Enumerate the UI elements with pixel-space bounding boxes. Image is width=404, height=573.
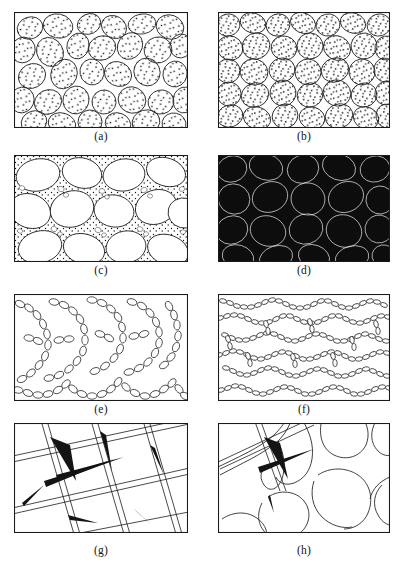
panel-b	[218, 12, 390, 128]
panel-e	[14, 294, 188, 401]
caption-e: (e)	[71, 403, 131, 415]
panel-g-graphic	[14, 423, 188, 533]
caption-f: (f)	[274, 403, 334, 415]
panel-f	[218, 294, 390, 401]
caption-h: (h)	[274, 544, 334, 556]
figure-sheet: (a)	[0, 0, 404, 573]
panel-f-graphic	[218, 294, 390, 401]
caption-d: (d)	[274, 264, 334, 276]
panel-h	[218, 423, 390, 533]
panel-c	[14, 155, 188, 262]
panel-g	[14, 423, 188, 533]
panel-c-graphic	[14, 155, 188, 262]
panel-d-graphic	[218, 155, 390, 262]
caption-a: (a)	[71, 130, 131, 142]
panel-a	[14, 12, 188, 128]
caption-b: (b)	[274, 130, 334, 142]
panel-d	[218, 155, 390, 262]
caption-g: (g)	[71, 544, 131, 556]
panel-e-graphic	[14, 294, 188, 401]
panel-a-graphic	[14, 12, 188, 128]
panel-h-graphic	[218, 423, 390, 533]
caption-c: (c)	[71, 264, 131, 276]
panel-b-graphic	[218, 12, 390, 128]
